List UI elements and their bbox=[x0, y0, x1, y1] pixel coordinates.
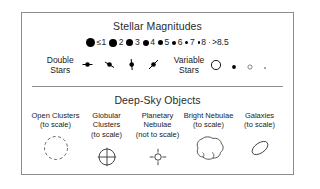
variable-star-symbols bbox=[210, 57, 268, 75]
deep-sky-item-bright-nebulae: Bright Nebulae (to scale) bbox=[183, 111, 234, 163]
variable-dot-tiny-icon bbox=[262, 57, 268, 75]
deep-sky-item-galaxies: Galaxies (to scale) bbox=[234, 111, 285, 163]
galaxies-label: Galaxies (to scale) bbox=[244, 111, 275, 130]
double-variable-row: Double Stars bbox=[22, 56, 293, 75]
bright-nebula-blob-icon bbox=[191, 133, 227, 163]
variable-circle-large-icon bbox=[210, 57, 222, 75]
planetary-nebula-rayed-circle-icon bbox=[149, 142, 167, 172]
variable-dot-filled-icon bbox=[230, 57, 238, 75]
deep-sky-item-planetary-nebulae: Planetary Nebulae (not to scale) bbox=[132, 111, 183, 172]
magnitude-item: ≤1 bbox=[86, 38, 106, 47]
galaxy-ellipse-icon bbox=[247, 133, 273, 163]
magnitude-dot-icon bbox=[209, 42, 210, 43]
magnitude-item: 7 bbox=[185, 38, 194, 47]
magnitude-item: 4 bbox=[143, 38, 155, 47]
globular-clusters-label: Globular Clusters (to scale) bbox=[81, 111, 132, 139]
legend-card: Stellar Magnitudes ≤12345678>8.5 Double … bbox=[21, 12, 294, 175]
magnitude-label: >8.5 bbox=[212, 38, 229, 47]
magnitude-dot-icon bbox=[109, 39, 117, 47]
magnitude-label: 4 bbox=[150, 38, 155, 47]
globular-cluster-crossed-circle-icon bbox=[96, 142, 118, 172]
stellar-magnitudes-section: Stellar Magnitudes ≤12345678>8.5 Double … bbox=[22, 20, 293, 75]
double-stars-label: Double Stars bbox=[47, 56, 74, 75]
variable-stars-label: Variable Stars bbox=[174, 56, 205, 75]
magnitude-item: >8.5 bbox=[209, 38, 229, 47]
stellar-magnitudes-title: Stellar Magnitudes bbox=[22, 20, 293, 32]
magnitude-item: 2 bbox=[109, 38, 123, 47]
variable-circle-small-icon bbox=[246, 57, 254, 75]
magnitude-item: 3 bbox=[126, 38, 139, 47]
double-star-bar-vertical-icon bbox=[125, 57, 138, 75]
deep-sky-item-open-clusters: Open Clusters (to scale) bbox=[30, 111, 81, 163]
magnitude-label: ≤1 bbox=[97, 38, 106, 47]
magnitude-scale: ≤12345678>8.5 bbox=[22, 38, 293, 47]
double-star-bar-horizontal-icon bbox=[81, 57, 94, 75]
double-star-bar-steep-icon bbox=[147, 57, 160, 75]
double-star-bar-diagonal-icon bbox=[103, 57, 116, 75]
deep-sky-item-globular-clusters: Globular Clusters (to scale) bbox=[81, 111, 132, 172]
magnitude-item: 8 bbox=[198, 38, 206, 47]
magnitude-label: 6 bbox=[178, 38, 183, 47]
magnitude-label: 5 bbox=[164, 38, 169, 47]
magnitude-item: 6 bbox=[172, 38, 182, 47]
deep-sky-objects-section: Deep-Sky Objects Open Clusters (to scale… bbox=[22, 94, 293, 172]
magnitude-dot-icon bbox=[158, 40, 163, 45]
planetary-nebulae-label: Planetary Nebulae (not to scale) bbox=[136, 111, 179, 139]
magnitude-label: 8 bbox=[201, 38, 206, 47]
magnitude-dot-icon bbox=[126, 39, 133, 46]
section-divider bbox=[32, 86, 283, 87]
open-clusters-label: Open Clusters (to scale) bbox=[32, 111, 80, 130]
magnitude-label: 2 bbox=[119, 38, 124, 47]
magnitude-dot-icon bbox=[86, 38, 95, 47]
magnitude-item: 5 bbox=[158, 38, 169, 47]
magnitude-label: 7 bbox=[190, 38, 195, 47]
double-star-symbols bbox=[81, 57, 160, 75]
magnitude-dot-icon bbox=[185, 41, 188, 44]
magnitude-dot-icon bbox=[143, 40, 149, 46]
deep-sky-objects-title: Deep-Sky Objects bbox=[22, 94, 293, 106]
magnitude-dot-icon bbox=[172, 41, 176, 45]
deep-sky-items: Open Clusters (to scale) Globular Cluste… bbox=[22, 111, 293, 172]
open-cluster-dashed-circle-icon bbox=[41, 133, 71, 163]
bright-nebulae-label: Bright Nebulae (to scale) bbox=[184, 111, 234, 130]
magnitude-label: 3 bbox=[135, 38, 140, 47]
magnitude-dot-icon bbox=[198, 41, 200, 43]
